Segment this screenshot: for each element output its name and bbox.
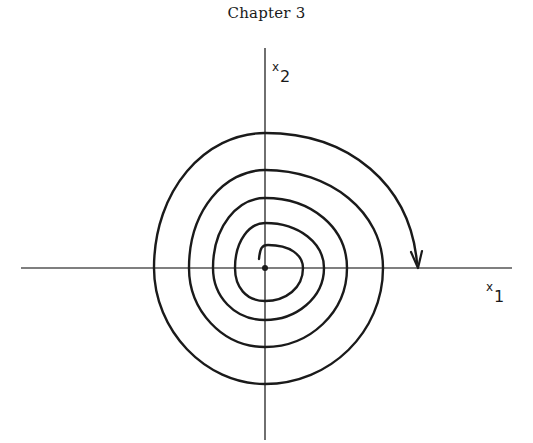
x1-label-subscript: 1: [494, 287, 504, 306]
spiral-trajectory: [154, 133, 417, 384]
x1-label-base: x: [486, 280, 493, 294]
phase-portrait-diagram: [0, 0, 533, 443]
x2-label-base: x: [272, 60, 279, 74]
origin-equilibrium-dot: [262, 265, 268, 271]
x1-axis-label: x1: [486, 280, 503, 299]
x2-axis-label: x2: [272, 60, 289, 79]
x2-label-subscript: 2: [280, 67, 290, 86]
